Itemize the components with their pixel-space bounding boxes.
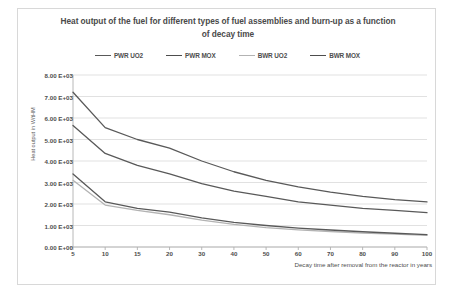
y-axis-tick-labels: 0.00 E+001.00 E+032.00 E+033.00 E+034.00…: [18, 9, 73, 286]
series-line-pwr-mox: [73, 126, 427, 213]
y-tick-label: 3.00 E+03: [29, 179, 73, 186]
plot-area: 0.00 E+001.00 E+032.00 E+033.00 E+034.00…: [18, 9, 437, 286]
x-tick-label: 70: [315, 250, 345, 257]
x-tick-label: 15: [122, 250, 152, 257]
x-tick-label: 30: [187, 250, 217, 257]
x-tick-label: 5: [58, 250, 88, 257]
series-line-bwr-uo2: [73, 180, 427, 235]
series-line-pwr-uo2: [73, 92, 427, 202]
x-tick-label: 50: [251, 250, 281, 257]
x-tick-label: 10: [90, 250, 120, 257]
x-axis-title: Decay time after removal from the reacto…: [294, 261, 432, 268]
chart-svg: [18, 9, 437, 286]
y-tick-label: 8.00 E+03: [29, 72, 73, 79]
x-tick-label: 20: [155, 250, 185, 257]
x-tick-label: 90: [380, 250, 410, 257]
x-tick-label: 100: [412, 250, 442, 257]
x-tick-label: 60: [283, 250, 313, 257]
chart-card: Heat output of the fuel for different ty…: [17, 8, 436, 285]
y-tick-label: 2.00 E+03: [29, 201, 73, 208]
x-tick-label: 40: [219, 250, 249, 257]
y-tick-label: 1.00 E+03: [29, 222, 73, 229]
x-tick-label: 80: [348, 250, 378, 257]
y-axis-title: Heat output in W/tHM: [30, 89, 36, 179]
